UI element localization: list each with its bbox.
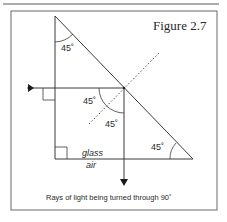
- bottom-right-angle-arc: [170, 143, 176, 159]
- incident-arrow-icon: [28, 84, 34, 92]
- figure-frame: [11, 11, 217, 210]
- reflected-angle-label: 45˚: [105, 119, 118, 129]
- figure-title: Figure 2.7: [153, 18, 207, 33]
- reflected-arrow-icon: [120, 179, 128, 186]
- glass-label: glass: [82, 148, 104, 158]
- incident-angle-label: 45˚: [83, 96, 96, 106]
- air-label: air: [86, 160, 97, 170]
- reflection-angle-arc: [99, 88, 124, 113]
- figure-caption: Rays of light being turned through 90˚: [46, 193, 172, 202]
- bottom-right-angle-label: 45˚: [151, 142, 164, 152]
- right-angle-marker-left: [43, 88, 55, 100]
- right-angle-marker-bottom: [55, 147, 67, 159]
- prism-reflection-diagram: Figure 2.7 45˚ 45˚ 45˚ 45˚ glass air Ray…: [0, 0, 227, 222]
- reflection-point: [123, 87, 125, 89]
- top-angle-arc: [55, 34, 73, 42]
- top-angle-label: 45˚: [61, 43, 74, 53]
